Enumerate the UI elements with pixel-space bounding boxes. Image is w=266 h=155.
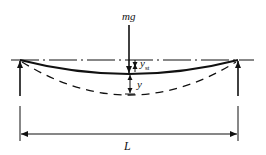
span-label: L (123, 139, 131, 153)
dynamic-deflection-label: y (136, 78, 142, 90)
static-deflection-label: yst (139, 57, 150, 72)
load-label: mg (122, 10, 136, 22)
beam-diagram: mg yst y L (0, 0, 266, 155)
